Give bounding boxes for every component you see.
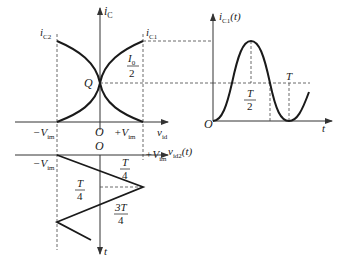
pos-vim-label-bottom: +Vim [145, 148, 167, 163]
vid-axis-label: vid [157, 126, 168, 141]
neg-vim-label: −Vim [33, 126, 55, 141]
half-period-denominator: 2 [247, 100, 253, 112]
i0-half-denominator: 2 [129, 67, 135, 79]
ic2-label: iC2 [40, 26, 52, 41]
ic1-time-curve [213, 41, 309, 121]
output-current-wave: iC1(t) O t T 2 T [204, 10, 332, 134]
origin-label-bottom: O [95, 139, 104, 153]
frac2-denominator: 4 [77, 190, 83, 202]
i0-half-numerator: I0 [127, 52, 136, 67]
t-axis-label-right: t [322, 122, 326, 134]
neg-vim-label-bottom: −Vim [33, 157, 55, 172]
origin-label-right: O [204, 117, 213, 131]
frac3-numerator: 3T [114, 201, 128, 213]
ic-axis-label: iC [104, 4, 113, 20]
differential-pair-transfer-diagram: iC iC2 iC1 Q I0 2 O −Vim +Vim vid O −Vim… [0, 0, 339, 265]
pos-vim-label: +Vim [114, 126, 136, 141]
transfer-characteristic: iC iC2 iC1 Q I0 2 O −Vim +Vim vid [15, 4, 213, 250]
frac2-numerator: T [77, 177, 84, 189]
q-point-label: Q [84, 76, 93, 90]
frac3-denominator: 4 [118, 214, 124, 226]
input-triangle-wave: O −Vim +Vim vid2(t) T 4 T 4 3T 4 t [15, 139, 193, 257]
frac1-denominator: 4 [122, 169, 128, 181]
vid2-signal-label: vid2(t) [168, 145, 193, 160]
origin-label-top: O [95, 125, 104, 139]
ic1-label: iC1 [146, 26, 158, 41]
half-period-numerator: T [247, 87, 254, 99]
frac1-numerator: T [122, 156, 129, 168]
period-label: T [286, 70, 293, 82]
t-axis-label-bottom: t [104, 245, 108, 257]
ic1-t-axis-label: iC1(t) [219, 10, 241, 25]
